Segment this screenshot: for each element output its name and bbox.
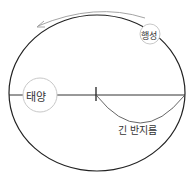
planet-label: 행성	[141, 29, 157, 42]
semi-major-arc	[97, 96, 184, 123]
sun-label: 태양	[26, 88, 46, 104]
direction-arrow-icon	[38, 12, 145, 26]
orbit-diagram: 태양 행성 긴 반지름	[0, 0, 190, 178]
semi-major-axis-label: 긴 반지름	[118, 122, 157, 137]
